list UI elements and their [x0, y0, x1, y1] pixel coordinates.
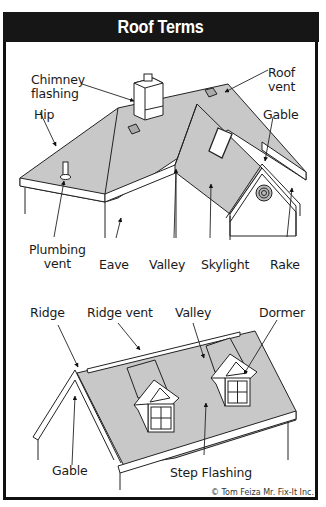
label-roof-vent: Roof vent — [268, 66, 295, 94]
label-ridge: Ridge — [30, 306, 65, 320]
label-skylight: Skylight — [201, 258, 249, 272]
copyright-credit: © Tom Feiza Mr. Fix-It Inc. — [211, 488, 314, 497]
label-chimney-flashing: Chimney flashing — [31, 73, 85, 101]
label-chimney-line1: Chimney — [31, 73, 85, 87]
label-step-flashing: Step Flashing — [170, 466, 252, 480]
label-plumbing-line1: Plumbing — [29, 243, 86, 257]
label-gable-bottom: Gable — [52, 464, 87, 478]
label-eave: Eave — [99, 258, 129, 272]
label-roof-line1: Roof — [268, 66, 295, 80]
label-rake: Rake — [270, 258, 300, 272]
label-vent-line2: vent — [268, 80, 295, 94]
label-hip: Hip — [34, 108, 54, 122]
label-plumbing-line2: vent — [29, 257, 86, 271]
label-plumbing-vent: Plumbing vent — [29, 243, 86, 271]
label-dormer: Dormer — [259, 306, 305, 320]
label-valley-top: Valley — [149, 258, 185, 272]
label-valley-bottom: Valley — [175, 306, 211, 320]
label-flashing-line2: flashing — [31, 87, 85, 101]
label-ridge-vent: Ridge vent — [87, 306, 153, 320]
label-gable-top: Gable — [263, 108, 298, 122]
